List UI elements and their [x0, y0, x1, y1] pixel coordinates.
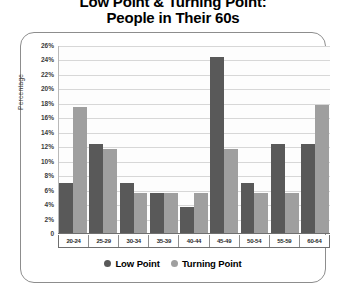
bar — [224, 149, 238, 234]
bar — [254, 193, 268, 234]
y-axis-tick-label: 12% — [41, 144, 54, 150]
x-axis-category-label: 50-54 — [240, 235, 270, 247]
bar — [59, 183, 73, 234]
legend-label: Turning Point — [182, 258, 242, 269]
circle-icon — [104, 260, 111, 267]
y-axis-tick-label: 20% — [41, 86, 54, 92]
bar — [180, 207, 194, 234]
y-axis-tick-label: 2% — [45, 217, 54, 223]
y-axis-tick-label: 22% — [41, 72, 54, 78]
bar — [73, 107, 87, 234]
legend-item[interactable]: Turning Point — [171, 258, 242, 269]
bar-group — [179, 46, 209, 234]
bar — [194, 193, 208, 234]
plot-area — [58, 46, 330, 234]
bar-group — [149, 46, 179, 234]
bar — [120, 183, 134, 234]
bar — [150, 193, 164, 234]
bar — [164, 193, 178, 234]
bar-group — [88, 46, 118, 234]
legend-label: Low Point — [115, 258, 159, 269]
bar — [315, 105, 329, 234]
y-axis-ticks: 02%4%6%8%10%12%14%16%18%20%22%24%26% — [30, 46, 56, 234]
bar — [241, 183, 255, 234]
page-title: Low Point & Turning Point: People in The… — [0, 0, 346, 26]
circle-icon — [171, 260, 178, 267]
bar — [210, 57, 224, 234]
legend-item[interactable]: Low Point — [104, 258, 159, 269]
bar — [89, 144, 103, 234]
bar — [103, 149, 117, 234]
x-axis-category-label: 20-24 — [59, 235, 89, 247]
x-axis-category-label: 60-64 — [300, 235, 329, 247]
x-axis-category-label: 25-29 — [89, 235, 119, 247]
bar-group — [118, 46, 148, 234]
bar-group — [239, 46, 269, 234]
x-axis-line — [58, 233, 330, 234]
bar-series-layer — [58, 46, 330, 234]
chart-title-line-2: People in Their 60s — [0, 10, 346, 26]
y-axis-tick-label: 10% — [41, 159, 54, 165]
x-axis-category-label: 40-44 — [179, 235, 209, 247]
bar-group — [300, 46, 330, 234]
y-axis-tick-label: 0 — [50, 231, 54, 237]
x-axis-labels: 20-2425-2930-3435-3940-4445-4950-5455-59… — [58, 235, 330, 248]
bar-group — [58, 46, 88, 234]
bar — [285, 193, 299, 234]
x-axis-category-label: 55-59 — [270, 235, 300, 247]
y-axis-tick-label: 14% — [41, 130, 54, 136]
y-axis-tick-label: 16% — [41, 115, 54, 121]
bar — [134, 193, 148, 234]
bar — [271, 144, 285, 234]
y-axis-tick-label: 8% — [45, 173, 54, 179]
x-axis-category-label: 45-49 — [210, 235, 240, 247]
y-axis-tick-label: 24% — [41, 57, 54, 63]
legend: Low PointTurning Point — [20, 258, 326, 269]
y-axis-tick-label: 6% — [45, 188, 54, 194]
x-axis-category-label: 30-34 — [119, 235, 149, 247]
y-axis-title: Percentage — [17, 74, 24, 110]
y-axis-tick-label: 4% — [45, 202, 54, 208]
x-axis-category-label: 35-39 — [149, 235, 179, 247]
y-axis-tick-label: 26% — [41, 43, 54, 49]
bar-group — [209, 46, 239, 234]
bar — [301, 144, 315, 234]
bar-group — [270, 46, 300, 234]
y-axis-tick-label: 18% — [41, 101, 54, 107]
